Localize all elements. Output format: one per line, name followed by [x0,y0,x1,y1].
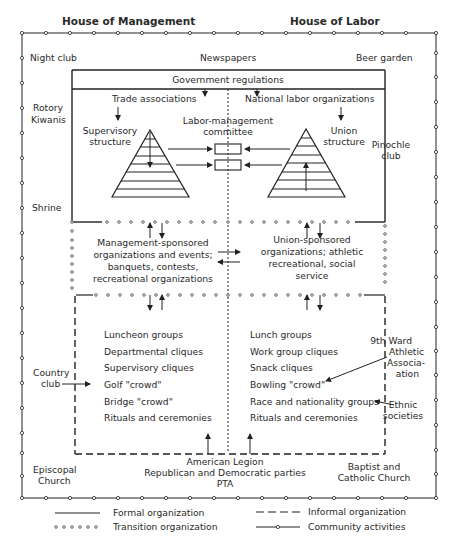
informal-management-list: Luncheon groups Departmental cliques Sup… [104,329,212,423]
list-item: Rituals and ceremonies [104,412,212,423]
legend-transition-label: Transition organization [112,521,218,532]
label-country: Country [33,367,70,378]
label-beer-garden: Beer garden [356,52,413,63]
label-political-parties: Republican and Democratic parties [144,467,306,478]
list-item: Work group cliques [250,346,338,357]
list-item: Race and nationality groups [250,396,379,407]
label-ation: ation [396,368,419,379]
label-national-labor: National labor organizations [245,93,375,104]
label-government-regulations: Government regulations [172,74,284,85]
legend-formal-label: Formal organization [113,507,205,518]
legend-community-swatch [256,525,300,528]
label-pta: PTA [217,478,234,489]
label-trade-associations: Trade associations [111,93,197,104]
informal-labor-list: Lunch groups Work group cliques Snack cl… [250,329,379,423]
label-supervisory: Supervisory [83,125,138,136]
label-mgmt-sponsored-3: banquets, contests, [108,261,199,272]
label-kiwanis: Kiwanis [31,114,66,125]
label-structure: structure [89,136,131,147]
label-pinochle-club: club [381,150,400,161]
label-rotary: Rotory [33,102,64,113]
label-union-sponsored-3: recreational, social [269,258,356,269]
label-committee: committee [203,126,253,137]
legend-informal-label: Informal organization [308,506,406,517]
label-shrine: Shrine [32,202,62,213]
label-9th-ward: 9th Ward [370,335,412,346]
list-item: Lunch groups [250,329,312,340]
label-episcopal: Episcopal [33,464,77,475]
label-union-sponsored-1: Union-sponsored [273,234,350,245]
label-baptist: Baptist and [348,461,401,472]
list-item: Bowling "crowd" [250,379,325,390]
list-item: Golf "crowd" [104,379,162,390]
label-union: Union [331,125,358,136]
list-item: Departmental cliques [104,346,203,357]
label-night-club: Night club [30,52,77,63]
label-societies: societies [383,410,423,421]
label-athletic: Athletic [389,346,424,357]
label-union-structure: structure [323,136,365,147]
label-associa: Associa- [387,357,425,368]
label-labor-management: Labor-management [183,115,274,126]
label-american-legion: American Legion [186,456,263,467]
label-union-sponsored-2: organizations; athletic [261,246,363,257]
label-union-sponsored-4: service [296,270,329,281]
legend: Formal organization Transition organizat… [55,506,407,532]
list-item: Luncheon groups [104,329,183,340]
legend-transition-swatch [55,526,98,529]
label-church: Church [38,475,71,486]
organization-diagram: House of Management House of Labor Night… [0,0,456,550]
list-item: Supervisory cliques [104,362,194,373]
label-newspapers: Newspapers [200,52,257,63]
label-mgmt-sponsored-4: recreational organizations [93,273,213,284]
informal-organization-box [75,296,385,454]
label-club: club [41,378,60,389]
list-item: Bridge "crowd" [104,396,173,407]
header-house-of-labor: House of Labor [290,15,380,27]
legend-community-label: Community activities [308,521,406,532]
list-item: Snack cliques [250,362,313,373]
label-pinochle: Pinochle [372,139,411,150]
header-house-of-management: House of Management [62,15,195,27]
label-mgmt-sponsored-2: organizations and events; [93,249,212,260]
label-mgmt-sponsored-1: Management-sponsored [97,237,208,248]
label-catholic: Catholic Church [338,472,411,483]
community-border [20,31,437,499]
list-item: Rituals and ceremonies [250,412,358,423]
